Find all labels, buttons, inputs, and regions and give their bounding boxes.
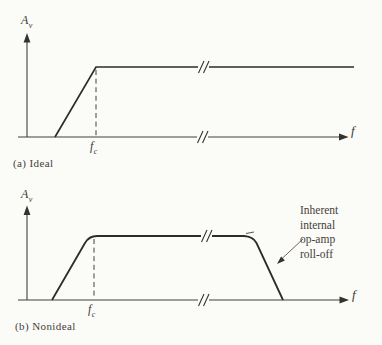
a-corner-frequency-label: fc <box>90 140 97 155</box>
a-y-axis-label-sub: v <box>29 21 33 30</box>
a-x-axis-label: f <box>351 124 355 137</box>
b-axis-break-icon <box>198 294 209 306</box>
a-axis-break-icon <box>197 131 208 143</box>
b-x-axis-arrow-icon <box>340 297 350 304</box>
b-y-axis-label: Av <box>21 188 32 203</box>
b-y-axis-arrow-icon <box>24 206 31 216</box>
a-corner-frequency-sub: c <box>94 147 98 156</box>
b-knee-tick <box>246 232 254 234</box>
a-y-axis-label: Av <box>21 14 32 29</box>
rolloff-annotation-line: internal <box>300 218 338 233</box>
b-curve-break-icon <box>201 230 212 242</box>
panel-a-axis-arrowheads <box>24 33 349 140</box>
figure-line-art <box>0 0 382 345</box>
a-gain-response-curve <box>55 67 354 137</box>
rolloff-annotation-line: roll-off <box>300 247 338 262</box>
panel-b-caption: (b) Nonideal <box>15 321 76 332</box>
a-curve-break-icon <box>198 61 209 73</box>
rolloff-annotation-line: op-amp <box>300 232 338 247</box>
b-y-axis-label-base: A <box>21 187 28 201</box>
b-corner-frequency-base: f <box>88 302 91 316</box>
rolloff-annotation: Inherent internal op-amp roll-off <box>300 203 338 261</box>
b-corner-frequency-label: fc <box>88 303 95 318</box>
rolloff-annotation-line: Inherent <box>300 203 338 218</box>
panel-a-axes <box>18 40 341 137</box>
b-x-axis-label: f <box>352 288 356 301</box>
b-corner-frequency-sub: c <box>92 310 96 319</box>
a-x-axis-arrow-icon <box>339 134 349 141</box>
a-corner-frequency-base: f <box>90 139 93 153</box>
panel-b-axes <box>18 212 342 300</box>
b-gain-response-curve <box>52 236 283 300</box>
opamp-frequency-response-figure: Av f fc (a) Ideal Av f fc (b) Nonideal I… <box>0 0 382 345</box>
panel-a-caption: (a) Ideal <box>13 158 54 169</box>
a-y-axis-arrow-icon <box>24 33 31 43</box>
b-y-axis-label-sub: v <box>29 195 33 204</box>
a-y-axis-label-base: A <box>21 13 28 27</box>
